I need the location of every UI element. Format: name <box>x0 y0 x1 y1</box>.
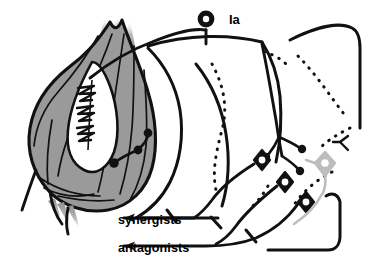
gray-matter-process-right <box>333 136 348 150</box>
alpha-motor-neuron <box>277 172 293 192</box>
label-ia-afferent: Ia <box>229 12 241 27</box>
annulospiral-endings <box>77 86 95 141</box>
ia-terminal-branches <box>268 137 300 169</box>
alpha-motor-neuron <box>254 150 270 170</box>
label-antagonists: antagonists <box>118 241 189 255</box>
cord-dorsal-border-right <box>290 25 360 128</box>
diagram-canvas: Ia synergists antagonists <box>0 0 369 267</box>
gray-matter-dorsal-left <box>212 64 225 190</box>
label-synergists: synergists <box>118 213 182 227</box>
synaptic-bouton <box>296 167 304 175</box>
gray-matter-ventral-mid <box>248 186 268 210</box>
skeletal-muscle <box>22 14 155 234</box>
stretch-reflex-diagram: Ia synergists antagonists <box>0 0 369 267</box>
dorsal-root-ganglion <box>198 11 215 28</box>
cord-ventral-border-left <box>196 64 228 206</box>
synaptic-bouton <box>298 145 306 153</box>
gray-matter-dorsal-right <box>298 56 344 114</box>
